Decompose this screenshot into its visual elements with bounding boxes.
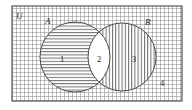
region-3-number: 3 bbox=[132, 54, 136, 64]
region-1-number: 1 bbox=[60, 54, 64, 64]
universe-label: U bbox=[16, 11, 23, 21]
set-b-label: B bbox=[145, 17, 151, 27]
venn-diagram-svg: U A B 1 2 3 4 bbox=[0, 0, 192, 110]
venn-diagram-canvas: U A B 1 2 3 4 bbox=[0, 0, 192, 110]
set-a-label: A bbox=[44, 16, 51, 26]
region-2-number: 2 bbox=[97, 54, 101, 64]
